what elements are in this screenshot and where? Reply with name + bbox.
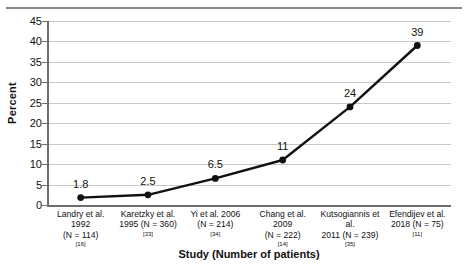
x-tick-label-n: (N = 222)	[265, 230, 301, 240]
chart-figure: 051015202530354045 Percent 1.82.56.51124…	[0, 0, 468, 269]
x-tick-label-reference: [35]	[316, 240, 383, 248]
y-tick-label-45: 45	[30, 16, 42, 27]
y-tick-mark-40	[42, 41, 47, 42]
x-tick-label-reference: [11]	[384, 230, 451, 238]
x-tick-label: Karetzky et al.1995 (N = 360)[33]	[114, 209, 181, 238]
y-tick-label-10: 10	[30, 159, 42, 170]
y-tick-mark-45	[42, 21, 47, 22]
gridline-20	[47, 123, 451, 124]
gridline-10	[47, 164, 451, 165]
x-axis-title: Study (Number of patients)	[47, 248, 451, 260]
gridline-5	[47, 185, 451, 186]
x-tick-label-study: Karetzky et al.	[121, 209, 175, 219]
data-point-label: 39	[411, 27, 423, 38]
x-tick-label: Landry et al. 1992(N = 114)[16]	[47, 209, 114, 248]
x-tick-label: Kutsogiannis et al.2011 (N = 239)[35]	[316, 209, 383, 248]
gridline-45	[47, 21, 451, 22]
y-tick-label-20: 20	[30, 118, 42, 129]
x-tick-label-n: 2011 (N = 239)	[322, 230, 379, 240]
gridline-35	[47, 62, 451, 63]
y-tick-label-40: 40	[30, 36, 42, 47]
y-tick-label-30: 30	[30, 77, 42, 88]
x-tick-label-n: 1995 (N = 360)	[119, 219, 177, 229]
gridline-15	[47, 144, 451, 145]
x-axis-line	[47, 205, 451, 207]
x-tick-label-study: Kutsogiannis et al.	[321, 209, 380, 229]
x-tick-label: Chang et al. 2009(N = 222)[14]	[249, 209, 316, 248]
x-tick-label: Efendijev et al.2018 (N = 75)[11]	[384, 209, 451, 238]
x-tick-label-n: 2018 (N = 75)	[391, 219, 444, 229]
plot-area	[47, 21, 451, 205]
data-point-label: 11	[277, 141, 288, 152]
x-tick-label-study: Efendijev et al.	[389, 209, 445, 219]
data-point-label: 2.5	[140, 176, 155, 187]
x-tick-label-n: (N = 214)	[197, 219, 233, 229]
gridline-25	[47, 103, 451, 104]
y-tick-mark-0	[42, 205, 47, 206]
x-tick-label-reference: [34]	[182, 230, 249, 238]
x-tick-label-reference: [33]	[114, 230, 181, 238]
x-tick-label-n: (N = 114)	[63, 230, 98, 240]
y-tick-mark-35	[42, 62, 47, 63]
gridlines	[47, 21, 451, 205]
y-tick-label-15: 15	[30, 138, 42, 149]
data-point-label: 1.8	[73, 179, 88, 190]
y-tick-label-35: 35	[30, 56, 42, 67]
x-tick-label-study: Chang et al. 2009	[259, 209, 305, 229]
x-axis-tick-labels: Landry et al. 1992(N = 114)[16]Karetzky …	[47, 209, 451, 249]
x-tick-label-reference: [16]	[47, 240, 114, 248]
x-tick-label-study: Landry et al. 1992	[57, 209, 104, 229]
y-axis-title: Percent	[6, 68, 18, 138]
y-tick-mark-30	[42, 82, 47, 83]
data-point-label: 6.5	[208, 159, 223, 170]
y-tick-mark-15	[42, 144, 47, 145]
gridline-30	[47, 82, 451, 83]
x-tick-label: Yi et al. 2006(N = 214)[34]	[182, 209, 249, 238]
y-tick-mark-25	[42, 103, 47, 104]
y-tick-mark-5	[42, 185, 47, 186]
gridline-40	[47, 41, 451, 42]
data-point-label: 24	[344, 88, 356, 99]
y-axis-line	[47, 21, 49, 206]
y-tick-label-25: 25	[30, 97, 42, 108]
y-tick-mark-10	[42, 164, 47, 165]
y-tick-mark-20	[42, 123, 47, 124]
figure-top-rule	[6, 7, 462, 9]
x-tick-label-reference: [14]	[249, 240, 316, 248]
x-tick-label-study: Yi et al. 2006	[190, 209, 240, 219]
